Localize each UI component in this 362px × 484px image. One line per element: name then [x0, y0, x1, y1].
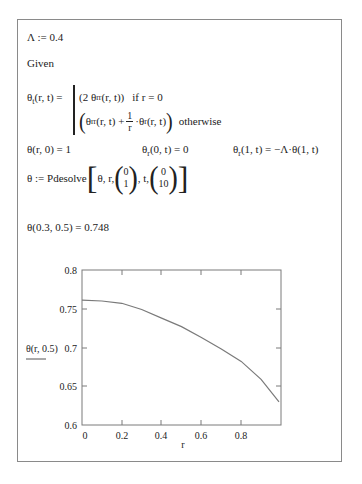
svg-text:0.7: 0.7: [65, 343, 78, 354]
svg-text:0.8: 0.8: [235, 430, 248, 441]
y-axis-label: θ(r, 0.5): [26, 343, 58, 355]
solution-curve: [82, 300, 279, 402]
x-tick-labels: 0 0.2 0.4 0.6 0.8: [83, 430, 248, 441]
svg-text:0: 0: [83, 430, 88, 441]
svg-text:0.65: 0.65: [60, 381, 78, 392]
plot-frame: [82, 270, 281, 425]
x-ticks: [122, 270, 241, 425]
solution-plot: 0.6 0.65 0.7 0.75 0.8 0 0.2 0.4 0.6 0.8 …: [0, 0, 362, 484]
y-ticks: [82, 309, 281, 386]
svg-text:0.6: 0.6: [65, 420, 78, 431]
svg-text:0.4: 0.4: [155, 430, 168, 441]
x-axis-label: r: [181, 439, 185, 450]
svg-text:0.6: 0.6: [195, 430, 208, 441]
y-tick-labels: 0.6 0.65 0.7 0.75 0.8: [60, 265, 78, 431]
svg-text:0.75: 0.75: [60, 304, 78, 315]
svg-text:0.8: 0.8: [65, 265, 78, 276]
svg-text:0.2: 0.2: [116, 430, 129, 441]
